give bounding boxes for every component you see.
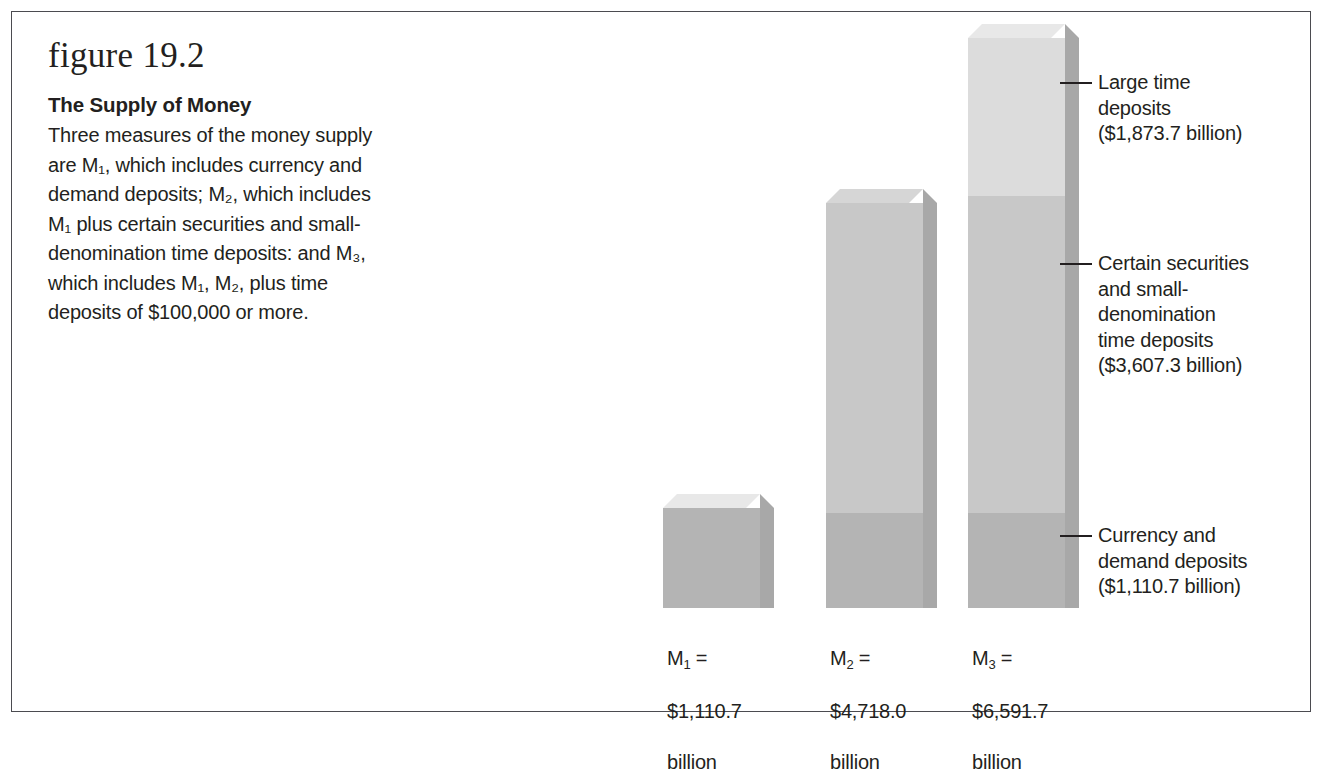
bar-m2-seg-securities	[826, 203, 923, 513]
axis-label-m2-measure: M2 =	[830, 647, 870, 669]
figure-description: Three measures of the money supply are M…	[48, 121, 378, 328]
axis-label-m1: M1 = $1,110.7 billion	[667, 620, 817, 773]
figure-number: figure 19.2	[48, 36, 378, 76]
bar-m1[interactable]	[663, 508, 760, 608]
bar-m1-front	[663, 508, 760, 608]
annotation-certain-securities: Certain securities and small- denominati…	[1098, 251, 1313, 379]
caption-block: figure 19.2 The Supply of Money Three me…	[48, 36, 378, 328]
bar-m3-front	[968, 38, 1065, 608]
axis-label-m3-measure: M3 =	[972, 647, 1012, 669]
bar-m3-seg-securities	[968, 196, 1065, 513]
axis-label-m1-unit: billion	[667, 751, 717, 773]
axis-label-m1-measure: M1 =	[667, 647, 707, 669]
bar-m3-top-face	[968, 24, 1065, 38]
bar-m1-top-face	[663, 494, 760, 508]
bar-m2-top-face	[826, 189, 923, 203]
bar-m2[interactable]	[826, 203, 923, 608]
bar-m3-side-face	[1065, 24, 1079, 608]
axis-label-m2-amount: $4,718.0	[830, 700, 906, 722]
bar-m3-seg-currency	[968, 513, 1065, 608]
axis-label-m3-amount: $6,591.7	[972, 700, 1048, 722]
bar-m3[interactable]	[968, 38, 1065, 608]
axis-label-m1-amount: $1,110.7	[667, 700, 742, 722]
axis-label-m2: M2 = $4,718.0 billion	[830, 620, 980, 773]
bar-m2-front	[826, 203, 923, 608]
annotation-large-time-deposits: Large time deposits ($1,873.7 billion)	[1098, 70, 1313, 147]
axis-label-m3-unit: billion	[972, 751, 1022, 773]
bar-m1-seg-currency	[663, 508, 760, 608]
annotation-currency-demand-deposits: Currency and demand deposits ($1,110.7 b…	[1098, 523, 1313, 600]
axis-label-m3: M3 = $6,591.7 billion	[972, 620, 1122, 773]
axis-label-m2-unit: billion	[830, 751, 880, 773]
bar-m2-side-face	[923, 189, 937, 608]
bar-m1-side-face	[760, 494, 774, 608]
figure-title: The Supply of Money	[48, 92, 378, 118]
bar-m3-seg-large-time	[968, 38, 1065, 196]
bar-m2-seg-currency	[826, 513, 923, 608]
